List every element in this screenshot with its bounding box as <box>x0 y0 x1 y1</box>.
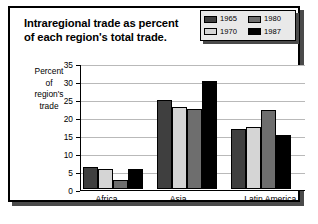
y-tick-label-0: 0 <box>68 186 73 196</box>
y-tick-25 <box>76 101 80 102</box>
bars-container <box>83 65 306 189</box>
bar-africa-1987 <box>128 169 143 188</box>
legend-swatch-icon-1970 <box>204 28 217 35</box>
chart-title-line-2: of each region's total trade. <box>24 31 204 45</box>
legend-swatch-icon-1987 <box>248 28 261 35</box>
y-tick-label-30: 30 <box>64 78 73 88</box>
bar-latin-america-1987 <box>276 135 291 188</box>
bar-asia-1987 <box>202 81 217 189</box>
bar-africa-1980 <box>113 180 128 189</box>
legend-item-1980: 1980 <box>248 15 292 23</box>
bar-africa-1970 <box>98 169 113 188</box>
y-tick-label-35: 35 <box>64 60 73 70</box>
category-label-asia: Asia <box>156 194 230 208</box>
y-tick-label-15: 15 <box>64 132 73 142</box>
legend-item-1987: 1987 <box>248 28 292 36</box>
chart-title: Intraregional trade as percent of each r… <box>24 17 204 44</box>
legend-swatch-icon-1965 <box>204 16 217 23</box>
legend-label-1970: 1970 <box>220 28 237 36</box>
y-tick-label-20: 20 <box>64 114 73 124</box>
y-tick-10 <box>76 155 80 156</box>
legend-swatch-icon-1980 <box>248 16 261 23</box>
bar-asia-1965 <box>157 100 172 189</box>
legend-item-1970: 1970 <box>204 28 248 36</box>
legend-item-1965: 1965 <box>204 15 248 23</box>
y-tick-35 <box>76 65 80 66</box>
bar-group-latin-america <box>231 65 305 189</box>
chart-legend: 1965198019701987 <box>200 10 296 41</box>
y-tick-0 <box>76 191 80 192</box>
y-tick-label-5: 5 <box>68 168 73 178</box>
plot-wrapper: 05101520253035 <box>80 65 305 191</box>
chart-title-line-1: Intraregional trade as percent <box>24 17 204 31</box>
bar-asia-1970 <box>172 107 187 188</box>
category-label-africa: Africa <box>82 194 156 208</box>
category-labels: AfricaAsiaLatin America <box>82 194 305 208</box>
bar-asia-1980 <box>187 109 202 188</box>
bar-latin-america-1980 <box>261 110 276 188</box>
legend-label-1987: 1987 <box>264 28 281 36</box>
legend-label-1965: 1965 <box>220 15 237 23</box>
y-tick-label-25: 25 <box>64 96 73 106</box>
y-tick-20 <box>76 119 80 120</box>
plot-area <box>80 65 305 191</box>
y-tick-5 <box>76 173 80 174</box>
bar-latin-america-1970 <box>246 127 261 188</box>
bar-latin-america-1965 <box>231 129 246 189</box>
y-tick-30 <box>76 83 80 84</box>
bar-group-africa <box>83 65 157 189</box>
y-tick-label-10: 10 <box>64 150 73 160</box>
y-tick-15 <box>76 137 80 138</box>
legend-label-1980: 1980 <box>264 15 281 23</box>
bar-group-asia <box>157 65 231 189</box>
category-label-latin-america: Latin America <box>230 194 304 208</box>
bar-africa-1965 <box>83 167 98 189</box>
